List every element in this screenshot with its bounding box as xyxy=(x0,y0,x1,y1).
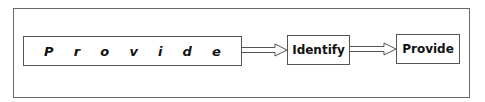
arrow-icon xyxy=(242,44,287,56)
arrow-icon xyxy=(350,43,396,55)
provide-label: Provide xyxy=(402,42,454,56)
provide-box: Provide xyxy=(396,34,460,64)
identify-box: Identify xyxy=(287,35,350,65)
identify-label: Identify xyxy=(292,43,345,57)
